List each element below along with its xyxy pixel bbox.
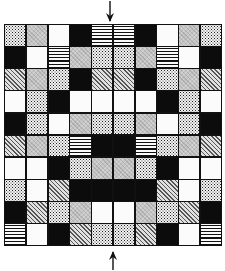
tile-diag bbox=[157, 180, 177, 201]
tile-gray bbox=[136, 47, 156, 68]
tile-white bbox=[201, 158, 221, 179]
tile-white bbox=[179, 180, 199, 201]
tile-gray bbox=[27, 25, 47, 46]
tile-diag bbox=[5, 136, 25, 157]
tile-diag bbox=[5, 69, 25, 90]
tile-dots bbox=[5, 25, 25, 46]
tile-black bbox=[5, 202, 25, 223]
tile-white bbox=[27, 47, 47, 68]
tile-grid bbox=[4, 24, 222, 246]
tile-white bbox=[157, 25, 177, 46]
tile-diag bbox=[179, 202, 199, 223]
tile-white bbox=[49, 25, 69, 46]
tile-black bbox=[201, 114, 221, 135]
tile-black bbox=[70, 69, 90, 90]
tile-white bbox=[5, 158, 25, 179]
tile-white bbox=[92, 91, 112, 112]
tile-dots bbox=[201, 25, 221, 46]
tile-gray bbox=[114, 158, 134, 179]
tile-black bbox=[157, 158, 177, 179]
tile-gray bbox=[27, 69, 47, 90]
tile-black bbox=[114, 136, 134, 157]
tile-black bbox=[92, 136, 112, 157]
tile-diag bbox=[92, 69, 112, 90]
tile-dots bbox=[114, 47, 134, 68]
tile-hlines bbox=[201, 224, 221, 245]
tile-black bbox=[201, 47, 221, 68]
tile-dots bbox=[114, 224, 134, 245]
tile-white bbox=[49, 114, 69, 135]
tile-dots bbox=[5, 180, 25, 201]
tile-gray bbox=[70, 202, 90, 223]
tile-diag bbox=[201, 136, 221, 157]
tile-gray bbox=[179, 69, 199, 90]
tile-white bbox=[136, 91, 156, 112]
tile-white bbox=[27, 224, 47, 245]
tile-black bbox=[70, 180, 90, 201]
tile-gray bbox=[92, 158, 112, 179]
tile-dots bbox=[49, 136, 69, 157]
tile-black bbox=[136, 25, 156, 46]
bottom-arrow-up-icon bbox=[107, 250, 119, 270]
tile-black bbox=[70, 25, 90, 46]
tile-hlines bbox=[70, 136, 90, 157]
tile-black bbox=[136, 180, 156, 201]
tile-diag bbox=[49, 180, 69, 201]
tile-black bbox=[157, 224, 177, 245]
tile-dots bbox=[157, 202, 177, 223]
tile-black bbox=[49, 224, 69, 245]
tile-white bbox=[114, 202, 134, 223]
tile-gray bbox=[27, 136, 47, 157]
tile-black bbox=[5, 47, 25, 68]
tile-black bbox=[5, 114, 25, 135]
tile-diag bbox=[114, 69, 134, 90]
tile-dots bbox=[27, 91, 47, 112]
tile-gray bbox=[179, 136, 199, 157]
tile-dots bbox=[49, 69, 69, 90]
tile-white bbox=[70, 91, 90, 112]
tile-dots bbox=[179, 114, 199, 135]
top-arrow-down-icon bbox=[104, 1, 116, 23]
tile-white bbox=[157, 114, 177, 135]
tile-dots bbox=[92, 47, 112, 68]
tile-hlines bbox=[136, 136, 156, 157]
tile-white bbox=[201, 91, 221, 112]
tile-black bbox=[157, 91, 177, 112]
tile-hlines bbox=[114, 25, 134, 46]
tile-white bbox=[179, 47, 199, 68]
tile-white bbox=[27, 180, 47, 201]
tile-black bbox=[49, 158, 69, 179]
tile-black bbox=[201, 202, 221, 223]
tile-gray bbox=[136, 114, 156, 135]
tile-dots bbox=[49, 202, 69, 223]
tile-white bbox=[179, 224, 199, 245]
tile-diag bbox=[201, 69, 221, 90]
tile-white bbox=[92, 202, 112, 223]
tile-black bbox=[136, 69, 156, 90]
tile-diag bbox=[136, 224, 156, 245]
tile-dots bbox=[157, 69, 177, 90]
tile-hlines bbox=[92, 25, 112, 46]
tile-dots bbox=[114, 114, 134, 135]
tile-dots bbox=[201, 180, 221, 201]
tile-dots bbox=[136, 158, 156, 179]
tile-black bbox=[114, 180, 134, 201]
tile-white bbox=[5, 91, 25, 112]
tile-diag bbox=[70, 224, 90, 245]
tile-dots bbox=[92, 224, 112, 245]
tile-diag bbox=[27, 202, 47, 223]
tile-dots bbox=[92, 114, 112, 135]
tile-hlines bbox=[157, 47, 177, 68]
tile-dots bbox=[27, 114, 47, 135]
tile-dots bbox=[70, 158, 90, 179]
tile-white bbox=[179, 158, 199, 179]
tile-gray bbox=[179, 25, 199, 46]
tile-dots bbox=[157, 136, 177, 157]
tile-black bbox=[92, 180, 112, 201]
tile-hlines bbox=[5, 224, 25, 245]
tile-white bbox=[114, 91, 134, 112]
tile-gray bbox=[136, 202, 156, 223]
tile-dots bbox=[179, 91, 199, 112]
tile-black bbox=[49, 91, 69, 112]
tile-white bbox=[27, 158, 47, 179]
